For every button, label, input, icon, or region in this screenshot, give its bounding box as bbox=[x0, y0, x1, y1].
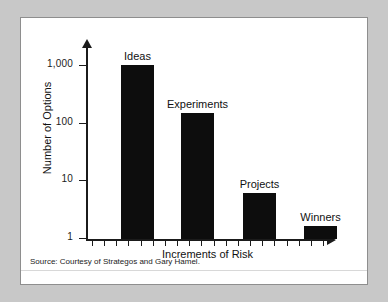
x-axis-tick bbox=[274, 241, 275, 246]
y-axis-tick-label: 10 bbox=[61, 173, 73, 184]
x-axis-tick bbox=[104, 241, 105, 246]
bar-label-winners: Winners bbox=[279, 211, 362, 223]
chart-plot-area: 1,000100101 IdeasExperimentsProjectsWinn… bbox=[21, 18, 369, 286]
bar-winners bbox=[304, 226, 337, 239]
x-axis-tick bbox=[238, 241, 239, 246]
x-axis-tick bbox=[311, 241, 312, 246]
y-axis-tick bbox=[79, 123, 86, 124]
source-note: Source: Courtesy of Strategos and Gary H… bbox=[30, 257, 200, 266]
bar-label-experiments: Experiments bbox=[156, 98, 239, 110]
y-axis-line bbox=[86, 47, 88, 240]
x-axis-tick bbox=[201, 241, 202, 246]
x-axis-tick bbox=[189, 241, 190, 246]
x-axis-tick bbox=[128, 241, 129, 246]
x-axis-tick bbox=[92, 241, 93, 246]
y-axis-tick-label: 1 bbox=[67, 231, 73, 242]
figure-page: 1,000100101 IdeasExperimentsProjectsWinn… bbox=[0, 0, 388, 302]
x-axis-tick bbox=[153, 241, 154, 246]
bar-projects bbox=[243, 193, 276, 239]
y-axis-tick bbox=[79, 180, 86, 181]
y-axis-tick bbox=[79, 65, 86, 66]
x-axis-tick bbox=[116, 241, 117, 246]
x-axis-tick bbox=[141, 241, 142, 246]
bar-label-projects: Projects bbox=[218, 178, 301, 190]
x-axis-tick bbox=[214, 241, 215, 246]
bar-label-ideas: Ideas bbox=[96, 50, 179, 62]
x-axis-tick bbox=[165, 241, 166, 246]
y-axis-arrow-icon bbox=[82, 39, 92, 48]
x-axis-tick bbox=[177, 241, 178, 246]
x-axis-tick bbox=[299, 241, 300, 246]
x-axis-tick bbox=[287, 241, 288, 246]
bar-experiments bbox=[181, 113, 214, 239]
x-axis-tick bbox=[323, 241, 324, 246]
y-axis-tick-label: 100 bbox=[56, 116, 73, 127]
x-axis-tick bbox=[250, 241, 251, 246]
y-axis-tick bbox=[79, 238, 86, 239]
y-axis-title: Number of Options bbox=[41, 58, 53, 198]
x-axis-tick bbox=[226, 241, 227, 246]
x-axis-line bbox=[86, 239, 329, 241]
figure-frame: 1,000100101 IdeasExperimentsProjectsWinn… bbox=[20, 17, 368, 285]
bar-ideas bbox=[121, 65, 154, 239]
x-axis-tick bbox=[262, 241, 263, 246]
source-divider bbox=[21, 270, 367, 271]
